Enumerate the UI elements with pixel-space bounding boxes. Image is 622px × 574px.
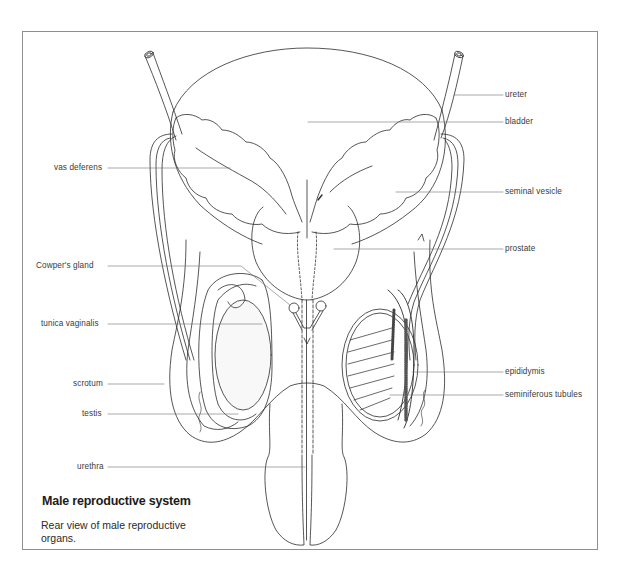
figure-description: Rear view of male reproductive organs. (41, 519, 221, 545)
reproductive-system-illustration (0, 0, 622, 574)
label-vas-deferens: vas deferens (54, 163, 102, 173)
leader-lines (108, 95, 503, 467)
penis-shape (265, 404, 347, 545)
scrotum-outline (170, 240, 445, 442)
ureter-left (144, 50, 182, 140)
label-bladder: bladder (505, 117, 533, 127)
leader-cowpers-gland (108, 266, 290, 305)
figure-title: Male reproductive system (42, 494, 191, 508)
seminal-vesicle-left (173, 114, 302, 233)
urethra-channel (302, 180, 313, 540)
vas-deferens-right (408, 134, 464, 360)
testis-right (342, 290, 425, 428)
label-cowpers-gland: Cowper's gland (36, 261, 94, 271)
seminal-vesicle-right (310, 114, 439, 233)
label-urethra: urethra (77, 462, 104, 472)
prostate-shape (252, 206, 360, 300)
cowpers-glands (289, 301, 326, 330)
label-epididymis: epididymis (505, 367, 545, 377)
label-seminiferous-tubules: seminiferous tubules (505, 390, 582, 400)
testis-left (199, 273, 272, 432)
label-prostate: prostate (505, 244, 535, 254)
label-tunica-vaginalis: tunica vaginalis (41, 319, 99, 329)
label-seminal-vesicle: seminal vesicle (505, 187, 562, 197)
bladder-shape (170, 48, 445, 244)
label-ureter: ureter (505, 90, 527, 100)
label-testis: testis (82, 409, 102, 419)
label-scrotum: scrotum (73, 379, 103, 389)
